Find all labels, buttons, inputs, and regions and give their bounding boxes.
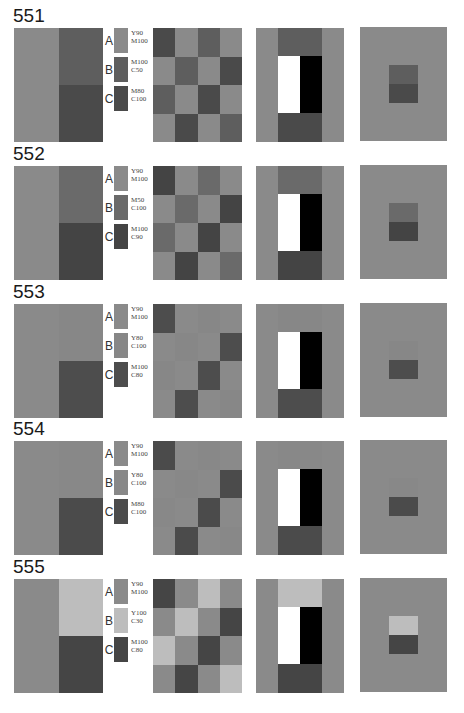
swatch-letter-a: A <box>104 585 114 599</box>
swatch-b <box>114 333 128 358</box>
section-title: 552 <box>13 144 45 164</box>
swatch-letter-b: B <box>104 339 114 353</box>
checker-cell <box>175 114 197 143</box>
swatch-c <box>114 86 128 111</box>
swatch-c <box>114 637 128 662</box>
checker-cell <box>198 28 220 57</box>
checkerboard-grid <box>153 304 242 418</box>
checker-cell <box>175 527 197 556</box>
swatch-cmyk-text: Y90 M100 <box>131 305 148 321</box>
checker-cell <box>220 441 242 470</box>
checker-cell <box>153 608 175 637</box>
checker-cell <box>220 333 242 362</box>
swatch-letter-c: C <box>104 368 114 382</box>
swatch-cmyk-text: M100 C80 <box>131 363 148 379</box>
swatch-cmyk-text: M100 C90 <box>131 225 148 241</box>
checker-cell <box>153 636 175 665</box>
swatch-a <box>114 28 128 53</box>
checker-cell <box>220 361 242 390</box>
checker-cell <box>198 223 220 252</box>
white-rect <box>278 607 300 664</box>
chart-section-551: 551AY90 M100BM100 C50CM80 C100 <box>0 6 464 143</box>
swatch-cmyk-text: Y80 C100 <box>131 471 146 487</box>
black-rect <box>300 607 322 664</box>
swatch-c <box>114 224 128 249</box>
panel-bottom-c <box>278 113 322 142</box>
chart-section-554: 554AY90 M100BY80 C100CM80 C100 <box>0 419 464 556</box>
checker-cell <box>198 665 220 694</box>
swatch-letter-b: B <box>104 63 114 77</box>
black-rect <box>300 194 322 251</box>
checker-cell <box>220 57 242 86</box>
checker-cell <box>175 85 197 114</box>
contrast-panel <box>256 166 344 280</box>
center-b <box>389 65 418 84</box>
checker-cell <box>220 527 242 556</box>
swatch-b <box>114 195 128 220</box>
checker-cell <box>153 304 175 333</box>
swatch-cmyk-text: Y100 C30 <box>131 609 147 625</box>
panel-top-b <box>278 166 322 194</box>
checker-cell <box>175 608 197 637</box>
checker-cell <box>153 28 175 57</box>
checker-cell <box>153 57 175 86</box>
checker-cell <box>220 636 242 665</box>
white-rect <box>278 194 300 251</box>
black-rect <box>300 332 322 389</box>
surround-panel <box>360 27 447 141</box>
section-title: 553 <box>13 282 45 302</box>
composite-square <box>14 579 103 693</box>
panel-top-b <box>278 304 322 332</box>
swatch-b <box>114 608 128 633</box>
checker-cell <box>153 252 175 281</box>
checker-cell <box>175 57 197 86</box>
black-rect <box>300 56 322 113</box>
panel-bottom-c <box>278 664 322 693</box>
cell-c <box>59 361 103 418</box>
chart-section-552: 552AY90 M100BM50 C100CM100 C90 <box>0 144 464 281</box>
checker-cell <box>175 636 197 665</box>
checker-cell <box>153 390 175 419</box>
swatch-cmyk-text: M50 C100 <box>131 196 146 212</box>
cell-c <box>59 498 103 555</box>
composite-square <box>14 28 103 142</box>
section-title: 555 <box>13 557 45 577</box>
checker-cell <box>175 28 197 57</box>
checker-cell <box>220 608 242 637</box>
swatch-letter-a: A <box>104 447 114 461</box>
swatch-cmyk-text: Y90 M100 <box>131 29 148 45</box>
checker-cell <box>220 579 242 608</box>
black-rect <box>300 469 322 526</box>
checker-cell <box>153 361 175 390</box>
checker-cell <box>175 498 197 527</box>
cell-b <box>59 166 103 223</box>
swatch-cmyk-text: Y90 M100 <box>131 580 148 596</box>
checker-cell <box>220 390 242 419</box>
section-title: 551 <box>13 6 45 26</box>
contrast-panel <box>256 441 344 555</box>
checker-cell <box>153 223 175 252</box>
surround-panel <box>360 578 447 692</box>
swatch-letter-a: A <box>104 310 114 324</box>
checkerboard-grid <box>153 166 242 280</box>
checker-cell <box>198 252 220 281</box>
white-rect <box>278 56 300 113</box>
contrast-panel <box>256 579 344 693</box>
swatch-cmyk-text: M100 C50 <box>131 58 148 74</box>
cell-b <box>59 304 103 361</box>
checker-cell <box>220 498 242 527</box>
white-rect <box>278 469 300 526</box>
swatch-b <box>114 57 128 82</box>
checkerboard-grid <box>153 579 242 693</box>
checker-cell <box>220 85 242 114</box>
panel-bottom-c <box>278 251 322 280</box>
cell-c <box>59 223 103 280</box>
checker-cell <box>220 252 242 281</box>
checker-cell <box>153 665 175 694</box>
chart-section-553: 553AY90 M100BY80 C100CM100 C80 <box>0 282 464 419</box>
checker-cell <box>198 85 220 114</box>
cell-a <box>14 28 59 142</box>
checker-cell <box>175 579 197 608</box>
checker-cell <box>153 527 175 556</box>
center-b <box>389 478 418 497</box>
